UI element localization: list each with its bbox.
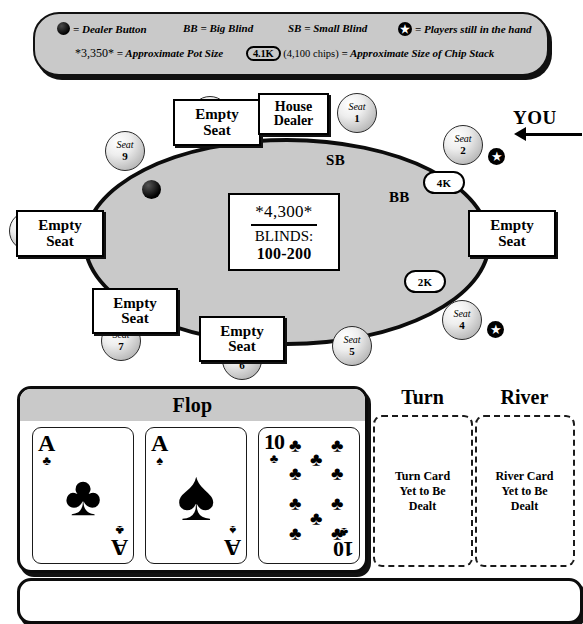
sidebar-item-seat-5[interactable]: Seat 5 <box>332 326 372 366</box>
seat-word-5: Seat <box>343 335 360 345</box>
flop-card-2-ace-of-spades: A ♠ A ♠ ♠ <box>145 427 247 564</box>
card-3-rank-tl: 10 <box>264 432 284 453</box>
card-1-rank-br: A <box>111 536 128 559</box>
legend-dealer-button-label: = Dealer Button <box>73 23 147 35</box>
legend-chip-label: = Approximate Size of Chip Stack <box>341 47 494 59</box>
empty-seat-text-top: EmptySeat <box>195 107 238 138</box>
card-1-corner-bottom-right: A ♣ <box>111 524 128 559</box>
clubs-pip-10: ♣ <box>331 524 343 543</box>
sidebar-item-seat-4[interactable]: Seat 4 <box>442 300 482 340</box>
clubs-pip-9: ♣ <box>289 524 301 543</box>
sidebar-item-seat-1[interactable]: Seat 1 <box>337 93 377 133</box>
empty-seat-text-bottom: EmptySeat <box>220 324 263 355</box>
bottom-partial-panel <box>17 578 583 624</box>
chip-stack-pill-icon: 4.1K <box>246 46 281 61</box>
river-placeholder-text: River Card Yet to Be Dealt <box>495 469 553 514</box>
empty-seat-text-bottom-left: EmptySeat <box>113 296 156 327</box>
seat-number-4: 4 <box>459 320 465 331</box>
clubs-pip-4: ♣ <box>289 464 301 483</box>
star-in-circle-icon <box>398 22 412 36</box>
pot-and-blinds-box: *4,300* BLINDS: 100-200 <box>228 193 340 271</box>
legend-chip-entry: 4.1K (4,100 chips) = Approximate Size of… <box>246 46 494 61</box>
big-blind-marker: BB <box>389 189 410 206</box>
house-dealer-text: HouseDealer <box>274 100 314 129</box>
clubs-pip-2: ♣ <box>331 436 343 455</box>
empty-seat-plaque-left[interactable]: EmptySeat <box>16 210 104 257</box>
card-2-corner-bottom-right: A ♠ <box>224 524 241 559</box>
flop-title: Flop <box>20 389 365 421</box>
seat-number-2: 2 <box>460 145 466 156</box>
card-2-corner-top-left: A ♠ <box>151 432 168 467</box>
empty-seat-plaque-right[interactable]: EmptySeat <box>468 210 556 257</box>
seat-number-7b: 7 <box>118 341 124 352</box>
seat-number-5: 5 <box>349 346 355 357</box>
legend-pot-entry: *3,350* = Approximate Pot Size <box>75 46 223 61</box>
seat-word-9: Seat <box>116 140 133 150</box>
seat-number-1: 1 <box>354 113 360 124</box>
river-card-placeholder: River Card Yet to Be Dealt <box>475 415 575 567</box>
small-blind-marker: SB <box>326 152 345 169</box>
clubs-pip-1: ♣ <box>289 436 301 455</box>
seat-word-1: Seat <box>348 102 365 112</box>
pot-size-value: *4,300* <box>251 201 316 226</box>
card-3-corner-top-left: 10 ♣ <box>264 432 284 465</box>
legend-panel: = Dealer Button BB = Big Blind SB = Smal… <box>33 12 549 76</box>
turn-title: Turn <box>371 386 474 409</box>
legend-pot-example: *3,350* <box>75 46 114 60</box>
river-title: River <box>473 386 576 409</box>
you-arrow-shaft <box>522 133 582 136</box>
legend-sb-entry: SB = Small Blind <box>288 22 367 34</box>
dealer-button-icon <box>57 22 70 35</box>
turn-card-placeholder: Turn Card Yet to Be Dealt <box>373 415 473 567</box>
card-1-rank-tl: A <box>38 432 55 455</box>
legend-dealer-button-entry: = Dealer Button <box>57 22 147 35</box>
empty-seat-text-left: EmptySeat <box>38 218 81 249</box>
flop-card-3-ten-of-clubs: 10 ♣ 10 ♣ ♣ ♣ ♣ ♣ ♣ ♣ ♣ ♣ ♣ ♣ <box>258 427 360 564</box>
turn-placeholder-text: Turn Card Yet to Be Dealt <box>395 469 450 514</box>
spades-icon-center-2: ♠ <box>177 460 215 532</box>
empty-seat-plaque-top[interactable]: EmptySeat <box>173 99 261 146</box>
legend-bb-entry: BB = Big Blind <box>183 22 253 34</box>
sidebar-item-seat-2[interactable]: Seat 2 <box>443 125 483 165</box>
seat-number-9: 9 <box>122 151 128 162</box>
legend-in-hand-entry: = Players still in the hand <box>398 22 532 36</box>
card-1-corner-top-left: A ♣ <box>38 432 55 467</box>
legend-in-hand-label: = Players still in the hand <box>415 23 532 35</box>
house-dealer-plaque[interactable]: HouseDealer <box>258 93 329 135</box>
empty-seat-text-right: EmptySeat <box>490 218 533 249</box>
sidebar-item-seat-9[interactable]: Seat 9 <box>105 131 145 171</box>
clubs-pip-7: ♣ <box>331 494 343 513</box>
empty-seat-plaque-bottom[interactable]: EmptySeat <box>199 316 285 362</box>
flop-card-row: A ♣ A ♣ ♣ A ♠ A ♠ ♠ <box>32 427 360 564</box>
in-hand-star-seat-4 <box>487 321 504 338</box>
seat-word-4: Seat <box>453 309 470 319</box>
river-column: River River Card Yet to Be Dealt <box>473 386 576 567</box>
card-2-rank-tl: A <box>151 432 168 455</box>
blinds-label: BLINDS: <box>255 228 313 245</box>
clubs-pip-8: ♣ <box>310 509 322 528</box>
chip-stack-seat-2: 4K <box>423 171 465 194</box>
legend-chip-parenthetical: (4,100 chips) <box>283 48 338 59</box>
clubs-pip-3: ♣ <box>310 450 322 469</box>
you-arrow-head-icon <box>514 127 526 141</box>
clubs-pip-6: ♣ <box>289 494 301 513</box>
you-label: YOU <box>513 107 557 129</box>
card-2-rank-br: A <box>224 536 241 559</box>
chip-stack-seat-4: 2K <box>404 270 446 293</box>
flop-panel: Flop A ♣ A ♣ ♣ A ♠ <box>17 386 368 573</box>
dealer-button-marker <box>142 180 161 199</box>
flop-card-1-ace-of-clubs: A ♣ A ♣ ♣ <box>32 427 134 564</box>
seat-word-2: Seat <box>454 134 471 144</box>
card-3-pip-grid: ♣ ♣ ♣ ♣ ♣ ♣ ♣ ♣ ♣ ♣ <box>285 434 355 557</box>
blinds-value: 100-200 <box>257 245 312 263</box>
in-hand-star-seat-2 <box>488 148 505 165</box>
legend-pot-label: = Approximate Pot Size <box>117 47 223 59</box>
empty-seat-plaque-bottom-left[interactable]: EmptySeat <box>92 288 178 334</box>
clubs-icon-center-1: ♣ <box>65 468 102 524</box>
turn-column: Turn Turn Card Yet to Be Dealt <box>371 386 474 567</box>
clubs-pip-5: ♣ <box>331 464 343 483</box>
